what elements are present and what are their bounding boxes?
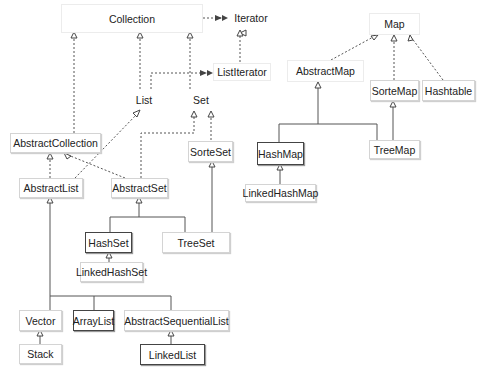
node-linked-hash-map: LinkedHashMap bbox=[245, 184, 316, 202]
node-map: Map bbox=[369, 13, 420, 35]
node-linked-list: LinkedList bbox=[140, 344, 205, 365]
node-hash-map: HashMap bbox=[257, 142, 304, 165]
node-sorted-set: SorteSet bbox=[188, 141, 233, 162]
node-array-list: ArrayList bbox=[73, 310, 114, 331]
node-collection: Collection bbox=[61, 4, 203, 33]
node-set: Set bbox=[182, 90, 220, 110]
node-abstract-map: AbstractMap bbox=[287, 60, 364, 82]
node-sorted-map: SorteMap bbox=[370, 80, 419, 101]
collections-hierarchy-diagram: Collection Iterator ListIterator List Se… bbox=[0, 0, 487, 379]
node-hashtable: Hashtable bbox=[422, 80, 475, 101]
node-linked-hash-set: LinkedHashSet bbox=[80, 262, 143, 282]
node-vector: Vector bbox=[19, 310, 62, 331]
node-abstract-list: AbstractList bbox=[19, 178, 83, 198]
node-iterator: Iterator bbox=[229, 9, 273, 27]
node-tree-map: TreeMap bbox=[369, 140, 420, 159]
node-tree-set: TreeSet bbox=[162, 232, 230, 253]
node-abstract-set: AbstractSet bbox=[111, 178, 168, 198]
node-abstract-collection: AbstractCollection bbox=[10, 133, 101, 153]
node-list: List bbox=[130, 90, 158, 110]
node-hash-set: HashSet bbox=[85, 232, 132, 253]
node-abstract-sequential-list: AbstractSequentialList bbox=[124, 310, 229, 331]
node-list-iterator: ListIterator bbox=[213, 63, 271, 81]
node-stack: Stack bbox=[19, 344, 62, 364]
